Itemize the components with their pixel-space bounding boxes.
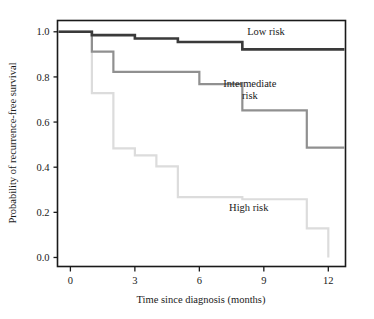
y-tick-label: 0.2 [36,207,49,218]
y-tick-label: 0.4 [36,162,50,173]
x-axis-tick-labels: 036912 [68,275,334,286]
chart-canvas: 0.00.20.40.60.81.0 036912 Low risk Inter… [0,0,374,319]
y-axis-title: Probability of recurrence-free survival [7,62,18,223]
y-axis-tick-labels: 0.00.20.40.60.81.0 [36,26,50,263]
x-tick-label: 12 [323,275,334,286]
x-tick-label: 0 [68,275,73,286]
series-label-low-risk: Low risk [247,26,285,37]
x-tick-label: 3 [132,275,137,286]
survival-curve-low-risk [59,32,345,50]
survival-curves [59,32,345,258]
y-tick-label: 0.8 [36,72,49,83]
plot-frame [58,21,346,267]
kaplan-meier-chart: 0.00.20.40.60.81.0 036912 Low risk Inter… [0,0,374,319]
series-label-intermediate-risk-line2: risk [242,90,259,101]
series-label-high-risk: High risk [229,202,269,213]
y-tick-label: 1.0 [36,26,49,37]
series-label-intermediate-risk-line1: Intermediate [223,78,276,89]
x-axis-title: Time since diagnosis (months) [137,294,266,306]
survival-curve-high-risk [59,32,329,258]
y-tick-label: 0.0 [36,252,49,263]
x-tick-label: 6 [197,275,202,286]
y-tick-label: 0.6 [36,117,49,128]
x-tick-label: 9 [261,275,266,286]
